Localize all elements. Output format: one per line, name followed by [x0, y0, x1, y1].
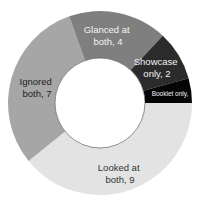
label-booklet-only: Booklet only, [152, 90, 189, 98]
label-ignored-both: Ignored both, 7 [20, 76, 55, 99]
donut-chart: Looked at both, 9 Ignored both, 7 Glance… [0, 0, 201, 208]
donut-hole [55, 58, 145, 148]
